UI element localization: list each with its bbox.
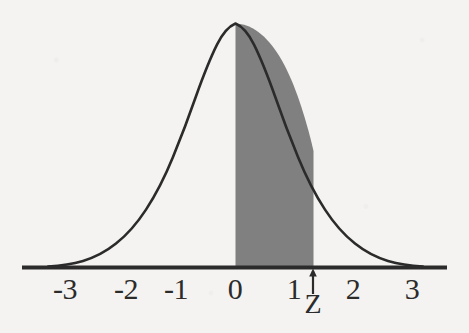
tick-label-0: 0: [228, 274, 243, 304]
tick-label-2: 2: [346, 274, 361, 304]
normal-distribution-figure: -3 -2 -1 0 1 2 3 Z: [0, 0, 469, 333]
z-annotation-label: Z: [304, 290, 321, 318]
tick-label-1: 1: [287, 274, 302, 304]
tick-label-3: 3: [405, 274, 420, 304]
tick-label-neg2: -2: [114, 274, 138, 304]
tick-label-neg3: -3: [53, 274, 77, 304]
tick-label-neg1: -1: [164, 274, 188, 304]
shaded-region: [236, 24, 314, 267]
